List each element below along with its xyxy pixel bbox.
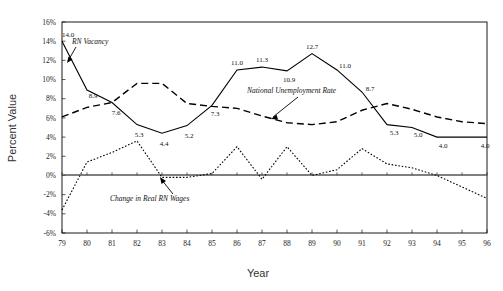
y-tick-label: 10% bbox=[42, 75, 56, 84]
x-tick-label: 84 bbox=[183, 239, 191, 248]
rn-vacancy-data-label: 11.0 bbox=[231, 59, 243, 67]
x-tick-label: 85 bbox=[208, 239, 216, 248]
rn-vacancy-data-label: 4.4 bbox=[160, 140, 169, 148]
rn-vacancy-data-label: 5.3 bbox=[390, 129, 399, 137]
y-tick-label: -2% bbox=[44, 190, 57, 199]
rn-vacancy-annotation-label: RN Vacancy bbox=[71, 37, 109, 46]
change-real-wages-arrowhead-icon bbox=[160, 177, 166, 184]
rn-vacancy-data-label: 12.7 bbox=[306, 43, 319, 51]
x-tick-label: 90 bbox=[333, 239, 341, 248]
rn-vacancy-data-label: 5.2 bbox=[185, 132, 194, 140]
y-axis-title: Percent Value bbox=[6, 94, 18, 162]
x-tick-label: 93 bbox=[408, 239, 416, 248]
y-tick-label: 12% bbox=[42, 56, 56, 65]
rn-vacancy-arrowhead-icon bbox=[67, 57, 73, 64]
y-tick-label: 2% bbox=[46, 152, 56, 161]
x-tick-label: 88 bbox=[283, 239, 291, 248]
y-tick-label: -6% bbox=[44, 229, 57, 238]
rn-vacancy-data-label: 4.0 bbox=[481, 142, 490, 150]
x-tick-label: 89 bbox=[308, 239, 316, 248]
rn-vacancy-data-label: 5.0 bbox=[414, 131, 423, 139]
x-tick-label: 83 bbox=[158, 239, 166, 248]
x-tick-label: 92 bbox=[383, 239, 391, 248]
national-unemployment-arrow-icon bbox=[273, 97, 298, 117]
y-tick-label: 6% bbox=[46, 114, 56, 123]
x-axis-title: Year bbox=[247, 267, 270, 279]
y-tick-label: 4% bbox=[46, 133, 56, 142]
line-chart: Percent Value Year 16%14%12%10%8%6%4%2%0… bbox=[0, 0, 503, 291]
national-unemployment-annotation-label: National Unemployment Rate bbox=[246, 86, 337, 95]
x-tick-label: 87 bbox=[258, 239, 266, 248]
x-tick-label: 82 bbox=[133, 239, 141, 248]
x-tick-label: 94 bbox=[433, 239, 441, 248]
y-tick-label: -4% bbox=[44, 209, 57, 218]
rn-vacancy-data-label: 7.3 bbox=[211, 110, 220, 118]
rn-vacancy-data-label: 11.3 bbox=[256, 56, 268, 64]
x-tick-label: 91 bbox=[358, 239, 366, 248]
x-tick-label: 80 bbox=[83, 239, 91, 248]
y-tick-label: 0% bbox=[46, 171, 56, 180]
y-tick-label: 16% bbox=[42, 18, 56, 27]
rn-vacancy-data-label: 8.7 bbox=[366, 85, 375, 93]
x-tick-label: 81 bbox=[108, 239, 116, 248]
rn-vacancy-data-label: 11.0 bbox=[339, 62, 351, 70]
x-tick-labels: 798081828384858687888990919293949596 bbox=[58, 239, 491, 248]
rn-vacancy-data-label: 4.0 bbox=[439, 142, 448, 150]
rn-vacancy-data-label: 8.9 bbox=[89, 92, 98, 100]
y-tick-label: 8% bbox=[46, 94, 56, 103]
x-tick-label: 79 bbox=[58, 239, 66, 248]
x-tick-label: 86 bbox=[233, 239, 241, 248]
rn-vacancy-data-label: 10.9 bbox=[283, 76, 296, 84]
change-real-wages-annotation-label: Change in Real RN Wages bbox=[110, 194, 189, 203]
x-tick-label: 95 bbox=[458, 239, 466, 248]
y-tick-labels: 16%14%12%10%8%6%4%2%0%-2%-4%-6% bbox=[42, 18, 56, 238]
x-tick-label: 96 bbox=[483, 239, 491, 248]
rn-vacancy-data-label: 7.6 bbox=[112, 109, 121, 117]
y-tick-label: 14% bbox=[42, 37, 56, 46]
chart-container: Percent Value Year 16%14%12%10%8%6%4%2%0… bbox=[0, 0, 503, 291]
rn-vacancy-data-label: 5.3 bbox=[135, 131, 144, 139]
